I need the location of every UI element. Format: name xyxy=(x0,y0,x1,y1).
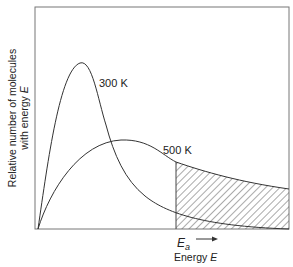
y-axis-label: Relative number of molecules with energy… xyxy=(2,7,34,229)
x-axis-label-text: Energy xyxy=(174,251,210,263)
ea-label-main: E xyxy=(177,236,185,250)
y-axis-label-line1: Relative number of molecules xyxy=(6,49,18,187)
x-axis-label: Energy E xyxy=(174,251,217,263)
y-axis-label-var: E xyxy=(18,86,30,93)
x-axis-label-var: E xyxy=(210,251,217,263)
ea-label: Ea xyxy=(177,236,190,252)
hatched-region xyxy=(176,162,289,229)
chart-canvas xyxy=(0,0,293,267)
label-300k: 300 K xyxy=(99,77,128,89)
label-500k: 500 K xyxy=(163,144,192,156)
ea-arrow-head xyxy=(212,237,218,242)
y-axis-label-line2: with energy xyxy=(18,93,30,150)
